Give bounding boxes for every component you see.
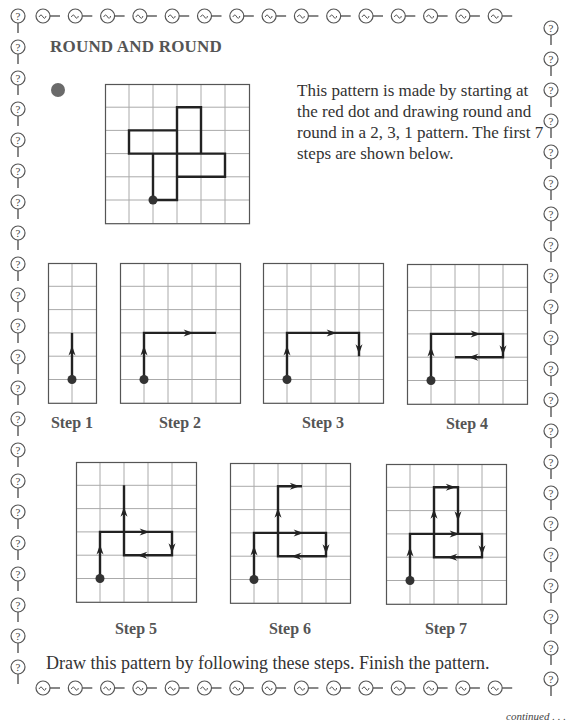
question-key-icon: ? — [11, 257, 25, 281]
coin-link-icon — [230, 9, 254, 23]
question-key-icon: ? — [11, 288, 25, 312]
start-dot-icon — [96, 574, 105, 583]
question-key-icon: ? — [544, 176, 558, 200]
coin-link-icon — [68, 681, 92, 695]
coin-link-icon — [294, 681, 318, 695]
svg-text:?: ? — [549, 332, 554, 344]
question-key-icon: ? — [544, 393, 558, 417]
question-key-icon: ? — [11, 226, 25, 250]
main-pattern-figure — [105, 84, 251, 225]
question-key-icon: ? — [11, 9, 25, 33]
step-5-figure — [76, 462, 198, 604]
coin-link-icon — [36, 681, 60, 695]
question-key-icon: ? — [11, 164, 25, 188]
svg-text:?: ? — [16, 196, 21, 208]
question-key-icon: ? — [11, 40, 25, 64]
svg-text:?: ? — [549, 487, 554, 499]
step-6-figure — [230, 463, 352, 605]
svg-text:?: ? — [16, 568, 21, 580]
question-key-icon: ? — [544, 672, 558, 696]
coin-link-icon — [488, 9, 512, 23]
question-key-icon: ? — [11, 381, 25, 405]
coin-link-icon — [327, 9, 351, 23]
svg-text:?: ? — [16, 506, 21, 518]
question-key-icon: ? — [11, 536, 25, 560]
question-key-icon: ? — [11, 350, 25, 374]
start-dot-icon — [427, 376, 436, 385]
step-2-figure — [120, 263, 242, 405]
question-key-icon: ? — [544, 517, 558, 541]
question-key-icon: ? — [11, 567, 25, 591]
coin-link-icon — [456, 9, 480, 23]
svg-text:?: ? — [16, 444, 21, 456]
question-key-icon: ? — [544, 145, 558, 169]
start-dot-icon — [140, 375, 149, 384]
question-key-icon: ? — [11, 133, 25, 157]
svg-text:?: ? — [16, 165, 21, 177]
coin-link-icon — [488, 681, 512, 695]
coin-link-icon — [133, 681, 157, 695]
coin-link-icon — [424, 9, 448, 23]
svg-text:?: ? — [16, 320, 21, 332]
svg-text:?: ? — [549, 239, 554, 251]
svg-text:?: ? — [16, 103, 21, 115]
coin-link-icon — [101, 9, 125, 23]
svg-text:?: ? — [549, 549, 554, 561]
question-key-icon: ? — [11, 71, 25, 95]
step-2-label: Step 2 — [120, 414, 240, 432]
question-key-icon: ? — [11, 660, 25, 684]
step-1-figure — [48, 263, 98, 405]
question-key-icon: ? — [544, 362, 558, 386]
svg-text:?: ? — [16, 10, 21, 22]
svg-text:?: ? — [16, 537, 21, 549]
svg-text:?: ? — [549, 363, 554, 375]
coin-link-icon — [101, 681, 125, 695]
question-key-icon: ? — [544, 610, 558, 634]
coin-link-icon — [198, 9, 222, 23]
svg-text:?: ? — [549, 208, 554, 220]
step-3-figure — [263, 263, 385, 405]
svg-text:?: ? — [16, 134, 21, 146]
question-key-icon: ? — [11, 629, 25, 653]
step-7-label: Step 7 — [386, 620, 506, 638]
question-key-icon: ? — [11, 195, 25, 219]
coin-link-icon — [230, 681, 254, 695]
question-key-icon: ? — [11, 102, 25, 126]
svg-text:?: ? — [549, 611, 554, 623]
question-key-icon: ? — [544, 424, 558, 448]
question-key-icon: ? — [544, 641, 558, 665]
question-key-icon: ? — [11, 598, 25, 622]
continued-note: continued . . . — [506, 710, 566, 722]
start-dot-icon — [68, 375, 77, 384]
coin-link-icon — [327, 681, 351, 695]
question-key-icon: ? — [11, 505, 25, 529]
coin-link-icon — [294, 9, 318, 23]
svg-text:?: ? — [549, 642, 554, 654]
question-key-icon: ? — [544, 83, 558, 107]
svg-text:?: ? — [549, 394, 554, 406]
step-4-label: Step 4 — [407, 415, 527, 433]
start-dot-icon — [250, 575, 259, 584]
coin-link-icon — [456, 681, 480, 695]
question-key-icon: ? — [544, 21, 558, 45]
svg-text:?: ? — [16, 630, 21, 642]
svg-text:?: ? — [16, 258, 21, 270]
coin-link-icon — [359, 681, 383, 695]
svg-text:?: ? — [549, 115, 554, 127]
svg-text:?: ? — [16, 289, 21, 301]
question-key-icon: ? — [11, 412, 25, 436]
svg-text:?: ? — [16, 227, 21, 239]
step-1-label: Step 1 — [48, 414, 96, 432]
svg-text:?: ? — [16, 413, 21, 425]
question-key-icon: ? — [544, 238, 558, 262]
svg-text:?: ? — [16, 382, 21, 394]
coin-link-icon — [68, 9, 92, 23]
coin-link-icon — [424, 681, 448, 695]
instruction-text: Draw this pattern by following these ste… — [46, 653, 489, 674]
question-key-icon: ? — [11, 443, 25, 467]
svg-text:?: ? — [549, 146, 554, 158]
question-key-icon: ? — [544, 455, 558, 479]
question-key-icon: ? — [544, 52, 558, 76]
svg-text:?: ? — [16, 351, 21, 363]
svg-text:?: ? — [549, 425, 554, 437]
